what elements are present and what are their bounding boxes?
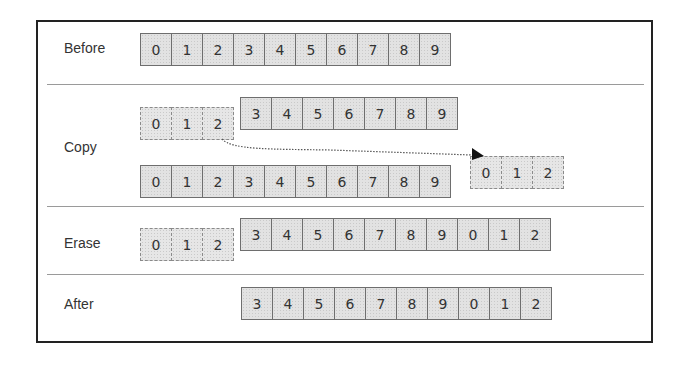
copy-appended-cell: 0	[470, 156, 502, 189]
copy-top-cell: 8	[395, 97, 427, 130]
copy-appended-dashed-strip: 0 1 2	[470, 156, 564, 189]
copy-source-dashed-strip: 0 1 2	[140, 107, 234, 140]
row-label-erase: Erase	[64, 235, 101, 251]
after-cell: 1	[489, 287, 521, 320]
copy-bottom-cell: 3	[233, 165, 265, 198]
row-label-after: After	[64, 296, 94, 312]
copy-appended-cell: 2	[532, 156, 564, 189]
copy-top-cell: 7	[364, 97, 396, 130]
copy-top-solid-strip: 3 4 5 6 7 8 9	[240, 97, 458, 130]
erase-removed-cell: 2	[202, 228, 234, 261]
copy-bottom-cell: 1	[171, 165, 203, 198]
after-cell: 3	[241, 287, 273, 320]
copy-bottom-cell: 8	[388, 165, 420, 198]
copy-source-cell: 1	[171, 107, 203, 140]
after-cell: 2	[520, 287, 552, 320]
after-cell: 9	[427, 287, 459, 320]
erase-removed-cell: 1	[171, 228, 203, 261]
before-cell: 0	[140, 33, 172, 66]
copy-top-cell: 3	[240, 97, 272, 130]
erase-solid-strip: 3 4 5 6 7 8 9 0 1 2	[240, 218, 551, 251]
erase-cell: 1	[488, 218, 520, 251]
erase-cell: 5	[302, 218, 334, 251]
copy-top-cell: 5	[302, 97, 334, 130]
copy-source-cell: 2	[202, 107, 234, 140]
separator-erase-after	[47, 274, 644, 275]
row-label-before: Before	[64, 40, 105, 56]
after-cell: 8	[396, 287, 428, 320]
separator-before-copy	[47, 84, 644, 85]
after-cell: 6	[334, 287, 366, 320]
erase-cell: 3	[240, 218, 272, 251]
copy-top-cell: 4	[271, 97, 303, 130]
before-cell: 5	[295, 33, 327, 66]
before-cell: 1	[171, 33, 203, 66]
copy-bottom-solid-strip: 0 1 2 3 4 5 6 7 8 9	[140, 165, 451, 198]
after-cell: 5	[303, 287, 335, 320]
before-cell: 3	[233, 33, 265, 66]
before-cell: 2	[202, 33, 234, 66]
before-strip: 0 1 2 3 4 5 6 7 8 9	[140, 33, 451, 66]
erase-removed-cell: 0	[140, 228, 172, 261]
erase-cell: 0	[457, 218, 489, 251]
copy-bottom-cell: 9	[419, 165, 451, 198]
copy-source-cell: 0	[140, 107, 172, 140]
copy-top-cell: 6	[333, 97, 365, 130]
erase-cell: 4	[271, 218, 303, 251]
copy-top-cell: 9	[426, 97, 458, 130]
copy-bottom-cell: 6	[326, 165, 358, 198]
erase-cell: 8	[395, 218, 427, 251]
after-cell: 0	[458, 287, 490, 320]
before-cell: 8	[388, 33, 420, 66]
copy-bottom-cell: 7	[357, 165, 389, 198]
row-label-copy: Copy	[64, 139, 97, 155]
copy-bottom-cell: 4	[264, 165, 296, 198]
copy-bottom-cell: 0	[140, 165, 172, 198]
erase-cell: 2	[519, 218, 551, 251]
copy-appended-cell: 1	[501, 156, 533, 189]
before-cell: 6	[326, 33, 358, 66]
after-strip: 3 4 5 6 7 8 9 0 1 2	[241, 287, 552, 320]
erase-removed-dashed-strip: 0 1 2	[140, 228, 234, 261]
before-cell: 9	[419, 33, 451, 66]
before-cell: 4	[264, 33, 296, 66]
copy-bottom-cell: 5	[295, 165, 327, 198]
before-cell: 7	[357, 33, 389, 66]
copy-bottom-cell: 2	[202, 165, 234, 198]
after-cell: 7	[365, 287, 397, 320]
erase-cell: 9	[426, 218, 458, 251]
erase-cell: 6	[333, 218, 365, 251]
erase-cell: 7	[364, 218, 396, 251]
after-cell: 4	[272, 287, 304, 320]
separator-copy-erase	[47, 206, 644, 207]
